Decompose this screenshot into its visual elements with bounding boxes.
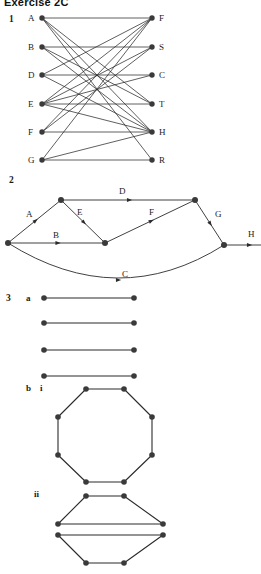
- octagon-vertex: [55, 414, 61, 420]
- bipartite-edge: [42, 18, 152, 104]
- bipartite-left-label: E: [28, 99, 34, 109]
- octagon-vertex: [83, 386, 89, 392]
- figures-canvas: ABDEFGFSCTHR 1 2 ABCDEFGH 3 a b i ii: [0, 0, 261, 574]
- bipartite-right-label: C: [159, 70, 165, 80]
- directed-edge-arrow: [247, 243, 252, 247]
- bipartite-right-vertex: [149, 72, 154, 77]
- bipartite-edge: [42, 18, 152, 132]
- question-3-number: 3: [6, 293, 11, 303]
- directed-edge-F: [105, 200, 195, 243]
- top-trapezoid-edge: [124, 496, 163, 524]
- directed-edge-arrow: [127, 198, 132, 202]
- bipartite-edge: [42, 18, 152, 160]
- question-1-number: 1: [9, 14, 14, 24]
- network-edge-label: B: [53, 230, 59, 240]
- bipartite-edge: [42, 75, 152, 104]
- bottom-trapezoid-edge: [124, 535, 163, 563]
- bipartite-left-vertex: [39, 44, 44, 49]
- network-vertex: [221, 242, 227, 248]
- bipartite-edge: [42, 18, 152, 132]
- directed-edge-arrow: [116, 278, 121, 282]
- bipartite-left-label: F: [28, 127, 33, 137]
- bipartite-left-label: A: [28, 13, 35, 23]
- octagon-edge: [58, 455, 86, 482]
- segment-vertex: [41, 295, 47, 301]
- directed-edge-C: [8, 243, 224, 278]
- bipartite-edge: [42, 18, 152, 75]
- octagon-edge: [58, 389, 86, 417]
- directed-edge-arrow: [207, 221, 211, 226]
- bipartite-left-vertex: [39, 101, 44, 106]
- segment-vertex: [131, 373, 137, 379]
- question-3b-i-figure: [55, 386, 155, 485]
- bottom-trapezoid-vertex: [160, 532, 166, 538]
- bipartite-right-vertex: [149, 15, 154, 20]
- segment-vertex: [41, 347, 47, 353]
- bipartite-right-label: S: [159, 42, 164, 52]
- directed-edge-arrow: [32, 219, 37, 224]
- question-1-figure: ABDEFGFSCTHR: [28, 13, 166, 165]
- segment-vertex: [41, 320, 47, 326]
- question-2-number: 2: [9, 175, 14, 185]
- segment-vertex: [131, 320, 137, 326]
- bipartite-right-label: T: [159, 99, 165, 109]
- octagon-vertex: [121, 479, 127, 485]
- question-3-part-b-label: b: [26, 383, 31, 393]
- bipartite-right-vertex: [149, 101, 154, 106]
- network-edge-label: A: [26, 209, 33, 219]
- question-2-figure: ABCDEFGH: [5, 186, 261, 282]
- question-3-part-b-i-label: i: [40, 383, 43, 393]
- top-trapezoid-vertex: [83, 493, 89, 499]
- bottom-trapezoid-edge: [58, 535, 86, 563]
- question-3-part-a-label: a: [26, 293, 31, 303]
- network-edge-label: C: [122, 269, 128, 279]
- bipartite-edge: [42, 75, 152, 132]
- network-edge-label: D: [119, 186, 126, 196]
- bipartite-right-label: F: [159, 13, 164, 23]
- bipartite-right-label: R: [159, 155, 165, 165]
- question-3b-ii-figure: [55, 493, 166, 566]
- octagon-vertex: [55, 452, 61, 458]
- bottom-trapezoid-vertex: [55, 532, 61, 538]
- bipartite-right-vertex: [149, 44, 154, 49]
- bipartite-edge: [42, 47, 152, 132]
- question-3a-figure: [41, 295, 137, 379]
- top-trapezoid-vertex: [160, 521, 166, 527]
- bottom-trapezoid-vertex: [83, 560, 89, 566]
- top-trapezoid-edge: [58, 496, 86, 524]
- network-edge-label: E: [77, 207, 83, 217]
- directed-edge-A: [8, 200, 61, 243]
- top-trapezoid-vertex: [55, 521, 61, 527]
- directed-edge-E: [61, 200, 105, 243]
- directed-edge-arrow: [148, 220, 154, 224]
- octagon-vertex: [149, 452, 155, 458]
- octagon-vertex: [149, 414, 155, 420]
- bipartite-edge: [42, 18, 152, 160]
- segment-vertex: [131, 347, 137, 353]
- bipartite-right-vertex: [149, 129, 154, 134]
- page-title: Exercise 2C: [4, 0, 69, 8]
- segment-vertex: [131, 295, 137, 301]
- bipartite-right-vertex: [149, 157, 154, 162]
- question-3-part-b-ii-label: ii: [34, 489, 40, 499]
- bipartite-edge: [42, 104, 152, 132]
- bipartite-right-label: H: [159, 127, 166, 137]
- bipartite-left-vertex: [39, 72, 44, 77]
- bipartite-edge: [42, 47, 152, 104]
- bipartite-left-vertex: [39, 157, 44, 162]
- directed-edge-arrow: [55, 241, 60, 245]
- segment-vertex: [41, 373, 47, 379]
- bipartite-left-vertex: [39, 15, 44, 20]
- octagon-edge: [124, 455, 152, 482]
- bipartite-left-label: B: [28, 42, 34, 52]
- bipartite-edge: [42, 47, 152, 132]
- bottom-trapezoid-vertex: [121, 560, 127, 566]
- network-edge-label: G: [215, 209, 222, 219]
- network-edge-label: F: [149, 207, 154, 217]
- network-vertex: [102, 240, 108, 246]
- network-vertex: [5, 240, 11, 246]
- network-vertex: [192, 197, 198, 203]
- network-edge-label: H: [248, 229, 255, 239]
- directed-edge-arrow: [81, 219, 86, 224]
- bipartite-edge: [42, 47, 152, 104]
